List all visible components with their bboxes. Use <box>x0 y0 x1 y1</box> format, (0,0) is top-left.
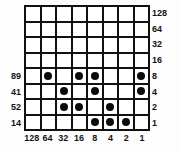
grid-cell[interactable] <box>104 38 120 54</box>
grid-wrapper <box>24 5 150 131</box>
grid-cell[interactable] <box>119 23 135 39</box>
grid-cell[interactable] <box>73 100 89 116</box>
grid-cell[interactable] <box>26 116 42 132</box>
grid-cell[interactable] <box>42 69 58 85</box>
grid-cell[interactable] <box>135 116 151 132</box>
grid-dot <box>91 118 99 126</box>
row-sum-label: 52 <box>0 102 21 112</box>
grid-cell[interactable] <box>88 85 104 101</box>
grid-cell[interactable] <box>73 7 89 23</box>
grid-cell[interactable] <box>88 69 104 85</box>
grid-cell[interactable] <box>104 69 120 85</box>
column-place-value-label: 128 <box>24 133 40 143</box>
row-place-value-label: 8 <box>152 71 178 81</box>
grid-cell[interactable] <box>73 85 89 101</box>
grid-cell[interactable] <box>26 54 42 70</box>
grid-cell[interactable] <box>26 85 42 101</box>
column-place-value-label: 32 <box>55 133 71 143</box>
grid-cell[interactable] <box>104 85 120 101</box>
grid-dot <box>91 72 99 80</box>
grid-dot <box>44 72 52 80</box>
grid-dot <box>75 72 83 80</box>
grid-cell[interactable] <box>104 116 120 132</box>
grid-cell[interactable] <box>135 38 151 54</box>
grid-dot <box>60 103 68 111</box>
row-place-value-label: 128 <box>152 8 178 18</box>
binary-dot-grid-figure: 1286432168421128643216842189415214 <box>0 0 179 150</box>
row-sum-label: 89 <box>0 71 21 81</box>
grid-cell[interactable] <box>104 100 120 116</box>
grid-cell[interactable] <box>57 116 73 132</box>
grid-cell[interactable] <box>57 100 73 116</box>
row-place-value-label: 16 <box>152 55 178 65</box>
row-sum-label: 14 <box>0 118 21 128</box>
grid-cell[interactable] <box>42 116 58 132</box>
grid-cell[interactable] <box>42 54 58 70</box>
grid-cell[interactable] <box>42 85 58 101</box>
column-place-value-label: 8 <box>87 133 103 143</box>
grid-dot <box>60 87 68 95</box>
grid-cell[interactable] <box>119 69 135 85</box>
grid-cell[interactable] <box>119 85 135 101</box>
column-place-value-label: 16 <box>71 133 87 143</box>
grid-cell[interactable] <box>104 54 120 70</box>
row-place-value-label: 1 <box>152 118 178 128</box>
grid-dot <box>137 72 145 80</box>
grid-cell[interactable] <box>104 7 120 23</box>
grid-cell[interactable] <box>57 7 73 23</box>
grid-cell[interactable] <box>135 100 151 116</box>
grid-cell[interactable] <box>119 54 135 70</box>
grid-cell[interactable] <box>88 100 104 116</box>
grid-cell[interactable] <box>104 23 120 39</box>
grid-cell[interactable] <box>57 85 73 101</box>
grid-cell[interactable] <box>135 7 151 23</box>
grid-cell[interactable] <box>73 69 89 85</box>
column-place-value-label: 64 <box>40 133 56 143</box>
grid-cell[interactable] <box>119 100 135 116</box>
grid-cell[interactable] <box>42 7 58 23</box>
grid-cell[interactable] <box>135 69 151 85</box>
grid-cell[interactable] <box>135 23 151 39</box>
dot-grid <box>24 5 150 131</box>
grid-cell[interactable] <box>88 116 104 132</box>
grid-cell[interactable] <box>57 23 73 39</box>
grid-cell[interactable] <box>26 100 42 116</box>
grid-cell[interactable] <box>88 38 104 54</box>
grid-cell[interactable] <box>135 54 151 70</box>
row-sum-label: 41 <box>0 87 21 97</box>
grid-cell[interactable] <box>26 7 42 23</box>
grid-cell[interactable] <box>57 69 73 85</box>
grid-dot <box>91 87 99 95</box>
grid-cell[interactable] <box>88 54 104 70</box>
grid-cell[interactable] <box>26 69 42 85</box>
row-place-value-label: 2 <box>152 102 178 112</box>
grid-cell[interactable] <box>73 116 89 132</box>
column-place-value-label: 2 <box>118 133 134 143</box>
grid-cell[interactable] <box>26 23 42 39</box>
grid-dot <box>122 118 130 126</box>
grid-cell[interactable] <box>73 23 89 39</box>
grid-cell[interactable] <box>135 85 151 101</box>
grid-cell[interactable] <box>119 38 135 54</box>
grid-dot <box>106 103 114 111</box>
grid-dot <box>75 103 83 111</box>
grid-cell[interactable] <box>73 38 89 54</box>
grid-cell[interactable] <box>119 7 135 23</box>
grid-cell[interactable] <box>88 23 104 39</box>
row-place-value-label: 64 <box>152 24 178 34</box>
grid-cell[interactable] <box>57 38 73 54</box>
grid-cell[interactable] <box>88 7 104 23</box>
grid-cell[interactable] <box>42 38 58 54</box>
grid-dot <box>106 118 114 126</box>
grid-cell[interactable] <box>42 23 58 39</box>
column-place-value-label: 1 <box>134 133 150 143</box>
grid-cell[interactable] <box>73 54 89 70</box>
grid-cell[interactable] <box>119 116 135 132</box>
row-place-value-label: 4 <box>152 87 178 97</box>
grid-cell[interactable] <box>42 100 58 116</box>
grid-cell[interactable] <box>26 38 42 54</box>
grid-cell[interactable] <box>57 54 73 70</box>
column-place-value-label: 4 <box>103 133 119 143</box>
grid-dot <box>137 87 145 95</box>
row-place-value-label: 32 <box>152 39 178 49</box>
